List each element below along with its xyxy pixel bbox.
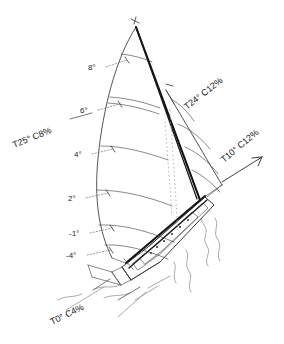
mainsail [97,27,174,264]
callout-upper-left: T25° C8% [11,125,53,150]
diagram-canvas: 8° 6° 4° 2° -1° -4° T25° C8% T24° C12% T… [0,0,284,344]
hull [88,196,214,285]
tick-label-2: 2° [68,194,76,203]
tick-label-minus1: -1° [69,229,79,238]
callout-upper-right: T24° C12% [182,75,225,111]
callout-lower-left: T0° C4% [48,302,85,327]
tick-label-4: 4° [74,150,82,159]
sail-trim-diagram: 8° 6° 4° 2° -1° -4° T25° C8% T24° C12% T… [0,0,284,344]
tick-label-group: 8° 6° 4° 2° -1° -4° [66,63,96,260]
tick-label-minus4: -4° [66,251,76,260]
tick-label-8: 8° [88,63,96,72]
tick-label-6: 6° [80,106,88,115]
callout-wind-arrow: T10° C12% [219,127,261,164]
